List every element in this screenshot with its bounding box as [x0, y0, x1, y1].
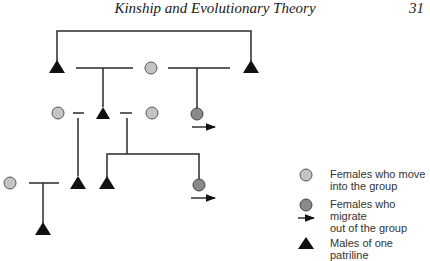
- legend-label: Females who move: [330, 168, 425, 180]
- female-emigrant-icon: [193, 179, 205, 191]
- legend-item-immigrant: Females who move into the group: [330, 168, 425, 192]
- legend-label: out of the group: [330, 222, 430, 234]
- light-circle-icon: [300, 169, 312, 181]
- female-immigrant-icon: [146, 107, 158, 119]
- legend-icons: [298, 169, 314, 249]
- male-triangle-icon: [243, 60, 259, 73]
- dark-circle-icon: [300, 199, 312, 211]
- top-bracket-line: [57, 31, 251, 61]
- female-immigrant-icon: [4, 177, 16, 189]
- female-immigrant-icon: [145, 62, 157, 74]
- male-triangle-icon: [49, 60, 65, 73]
- legend-item-male: Males of one patriline: [330, 237, 430, 261]
- male-triangle-icon: [35, 222, 51, 235]
- legend-label: Males of one patriline: [330, 237, 430, 261]
- legend-item-emigrant: Females who migrate out of the group: [330, 198, 430, 234]
- triangle-icon: [298, 237, 314, 249]
- male-triangle-icon: [70, 176, 86, 189]
- female-emigrant-icon: [191, 108, 203, 120]
- legend-label: into the group: [330, 180, 425, 192]
- female-immigrant-icon: [52, 107, 64, 119]
- legend-label: Females who migrate: [330, 198, 430, 222]
- sibling-bracket-line: [107, 154, 199, 180]
- male-triangle-icon: [99, 176, 115, 189]
- male-triangle-icon: [96, 107, 110, 119]
